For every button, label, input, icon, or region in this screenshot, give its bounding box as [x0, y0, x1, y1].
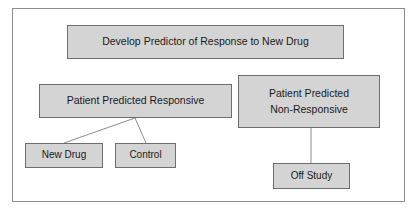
node-patient-predicted-non-responsive-label-line1: Patient Predicted: [269, 87, 349, 100]
node-new-drug-label: New Drug: [42, 149, 86, 162]
node-develop-predictor: Develop Predictor of Response to New Dru…: [67, 25, 344, 59]
node-patient-predicted-responsive: Patient Predicted Responsive: [39, 84, 232, 118]
node-develop-predictor-label: Develop Predictor of Response to New Dru…: [102, 35, 309, 48]
node-patient-predicted-responsive-label: Patient Predicted Responsive: [67, 94, 205, 107]
node-control-label: Control: [129, 149, 161, 162]
node-off-study: Off Study: [273, 163, 350, 189]
flowchart-canvas: Develop Predictor of Response to New Dru…: [0, 0, 418, 218]
node-patient-predicted-non-responsive-label-line2: Non-Responsive: [270, 103, 348, 116]
node-patient-predicted-non-responsive: Patient Predicted Non-Responsive: [238, 75, 380, 128]
node-off-study-label: Off Study: [291, 170, 333, 183]
node-control: Control: [115, 143, 176, 168]
connector-responsive-to-newdrug: [64, 118, 135, 143]
node-new-drug: New Drug: [25, 143, 103, 168]
connector-responsive-to-control: [135, 118, 146, 143]
